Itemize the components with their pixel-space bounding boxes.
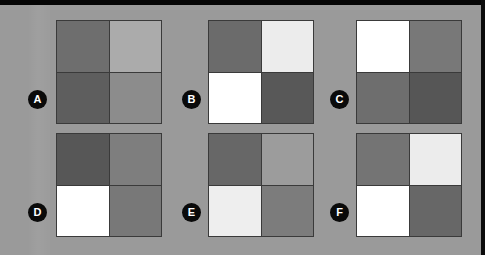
- swatch-cell-b-bottom-right[interactable]: [262, 73, 314, 124]
- swatch-cell-f-top-right[interactable]: [410, 134, 462, 185]
- panel-label-badge-b: B: [182, 90, 201, 109]
- swatch-panel-a[interactable]: [56, 20, 162, 124]
- swatch-cell-d-top-left[interactable]: [57, 134, 109, 185]
- swatch-cell-e-bottom-left[interactable]: [209, 186, 261, 237]
- swatch-panel-b[interactable]: [208, 20, 314, 124]
- swatch-cell-d-bottom-left[interactable]: [57, 186, 109, 237]
- swatch-panel-d[interactable]: [56, 133, 162, 237]
- panel-label-badge-f: F: [330, 203, 349, 222]
- stimulus-stage: ABCDEF: [0, 0, 485, 255]
- top-letterbox-bar: [0, 0, 485, 5]
- swatch-cell-a-bottom-right[interactable]: [110, 73, 162, 124]
- swatch-cell-c-top-left[interactable]: [357, 21, 409, 72]
- swatch-cell-b-bottom-left[interactable]: [209, 73, 261, 124]
- panel-label-badge-a: A: [28, 90, 47, 109]
- swatch-cell-f-bottom-right[interactable]: [410, 186, 462, 237]
- swatch-cell-c-top-right[interactable]: [410, 21, 462, 72]
- swatch-cell-a-top-left[interactable]: [57, 21, 109, 72]
- swatch-cell-b-top-right[interactable]: [262, 21, 314, 72]
- panel-label-badge-e: E: [182, 203, 201, 222]
- panel-label-badge-c: C: [330, 90, 349, 109]
- swatch-cell-a-top-right[interactable]: [110, 21, 162, 72]
- panel-label-badge-d: D: [28, 203, 47, 222]
- swatch-cell-a-bottom-left[interactable]: [57, 73, 109, 124]
- swatch-cell-e-bottom-right[interactable]: [262, 186, 314, 237]
- swatch-cell-e-top-right[interactable]: [262, 134, 314, 185]
- swatch-cell-c-bottom-left[interactable]: [357, 73, 409, 124]
- swatch-panel-c[interactable]: [356, 20, 462, 124]
- swatch-cell-d-bottom-right[interactable]: [110, 186, 162, 237]
- right-letterbox-bar: [481, 0, 485, 255]
- swatch-cell-d-top-right[interactable]: [110, 134, 162, 185]
- swatch-panel-e[interactable]: [208, 133, 314, 237]
- swatch-cell-f-bottom-left[interactable]: [357, 186, 409, 237]
- swatch-cell-b-top-left[interactable]: [209, 21, 261, 72]
- swatch-cell-f-top-left[interactable]: [357, 134, 409, 185]
- swatch-cell-c-bottom-right[interactable]: [410, 73, 462, 124]
- swatch-cell-e-top-left[interactable]: [209, 134, 261, 185]
- swatch-panel-f[interactable]: [356, 133, 462, 237]
